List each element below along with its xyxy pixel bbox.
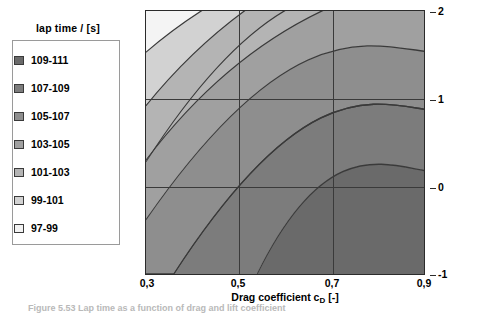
- legend-swatch-103-105: [14, 140, 24, 149]
- legend-item-label: 109-111: [31, 54, 68, 66]
- legend-swatch-105-107: [14, 112, 24, 121]
- gridline-x-0.7: [333, 11, 334, 274]
- gridline-y-1: [146, 99, 424, 100]
- legend-swatch-99-101: [14, 196, 24, 205]
- legend-item-label: 107-109: [31, 82, 70, 94]
- xtick-0.7: 0,7: [325, 277, 340, 289]
- contour-bands: [146, 11, 424, 274]
- tick-dash-icon: [430, 275, 436, 276]
- xtick-0.5: 0,5: [231, 277, 246, 289]
- legend-item[interactable]: 109-111: [14, 54, 68, 66]
- legend-title: lap time / [s]: [8, 22, 128, 34]
- legend-item[interactable]: 101-103: [14, 166, 70, 178]
- legend-item[interactable]: 103-105: [14, 138, 70, 150]
- legend-item-label: 97-99: [31, 222, 58, 234]
- legend-swatch-107-109: [14, 84, 24, 93]
- legend-item-label: 103-105: [31, 138, 70, 150]
- gridline-y-0: [146, 187, 424, 188]
- ytick-0: 0: [430, 181, 444, 193]
- legend-item-label: 99-101: [31, 194, 64, 206]
- legend-item-label: 101-103: [31, 166, 70, 178]
- legend-item[interactable]: 97-99: [14, 222, 58, 234]
- xtick-0.3: 0,3: [140, 277, 155, 289]
- contour-plot-area[interactable]: [145, 10, 425, 275]
- tick-dash-icon: [430, 188, 436, 189]
- ytick-2: 2: [430, 5, 444, 17]
- tick-dash-icon: [430, 100, 436, 101]
- legend-item[interactable]: 107-109: [14, 82, 70, 94]
- legend-swatch-97-99: [14, 224, 24, 233]
- y-axis-title: Lift coefficient cL [-]: [443, 10, 501, 275]
- legend-item[interactable]: 105-107: [14, 110, 70, 122]
- figure-caption: Figure 5.53 Lap time as a function of dr…: [28, 303, 286, 313]
- legend-item[interactable]: 99-101: [14, 194, 64, 206]
- legend-swatch-109-111: [14, 56, 24, 65]
- ytick-1: 1: [430, 93, 444, 105]
- tick-dash-icon: [430, 12, 436, 13]
- x-axis-title-suffix: [-]: [325, 291, 338, 303]
- x-axis-title-prefix: Drag coefficient c: [231, 291, 319, 303]
- contour-svg-upper: [146, 11, 424, 274]
- gridline-x-0.5: [239, 11, 240, 274]
- legend-item-label: 105-107: [31, 110, 70, 122]
- legend-swatch-101-103: [14, 168, 24, 177]
